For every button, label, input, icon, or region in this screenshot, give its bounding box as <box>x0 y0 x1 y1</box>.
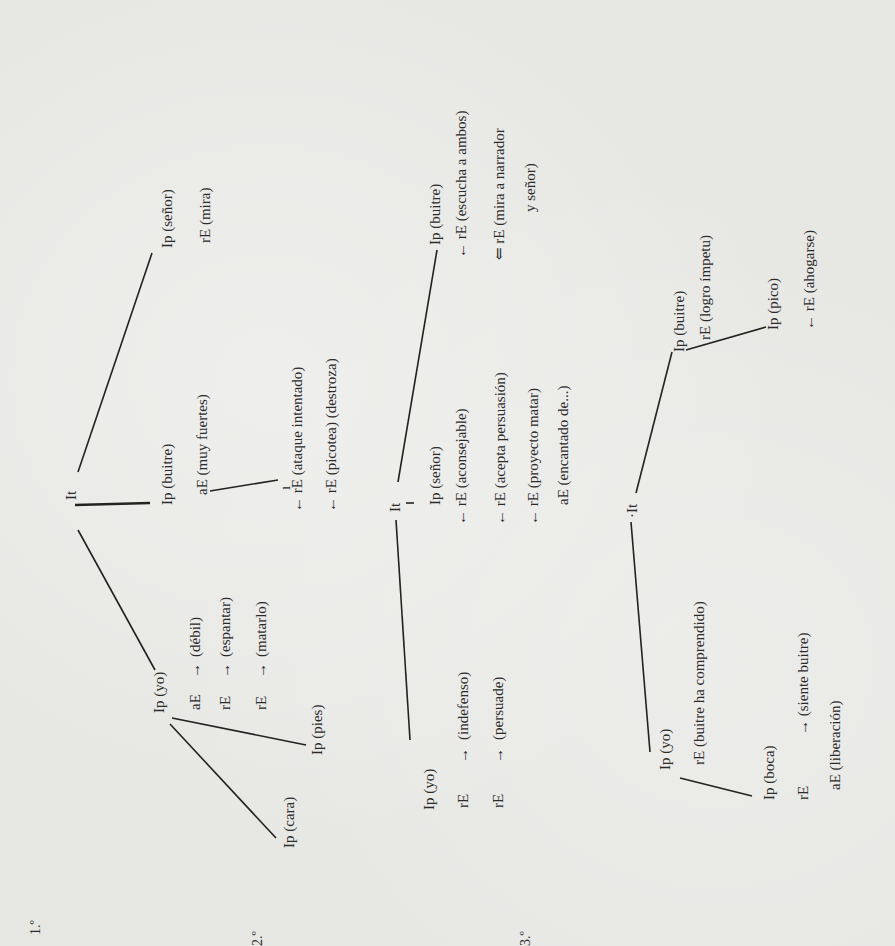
node-pico: Ip (pico) <box>765 278 782 330</box>
node-boca: Ip (boca) <box>761 745 778 800</box>
edge <box>78 253 152 472</box>
node-proyecto: ← rE (proyecto matar) <box>525 388 542 525</box>
node-senor: Ip (señor) <box>159 189 176 248</box>
node-buitre-fuertes: aE (muy fuertes) <box>194 394 211 495</box>
section-2: 2.º It Ip (buitre) ← rE (escucha a ambos… <box>250 111 572 946</box>
edge <box>631 522 650 752</box>
node-espantar-prefix: rE <box>217 696 233 710</box>
node-persuade: (persuade) <box>490 677 507 740</box>
edge <box>172 718 306 745</box>
node-yo: Ip (yo) <box>421 769 438 810</box>
section-1: 1.º It Ip (señor) rE (mira) Ip (buitre) … <box>28 188 340 935</box>
section-3-label: 3.º <box>518 931 533 946</box>
node-yo: Ip (yo) <box>657 729 674 770</box>
node-ahogarse: ← rE (ahogarse) <box>801 230 818 330</box>
tick-mark: ı <box>277 486 293 490</box>
arrow-right-icon: → <box>217 663 233 678</box>
arrow-right-icon: → <box>253 663 269 678</box>
edge <box>680 778 752 796</box>
arrow-right-icon: → <box>490 748 506 763</box>
edge <box>170 724 276 838</box>
section-1-root: It <box>63 490 79 500</box>
node-mira-1: ⇐ rE (mira a narrador <box>491 128 508 260</box>
node-acepta: ← rE (acepta persuasión) <box>492 372 509 525</box>
section-3-root: ·It <box>624 503 640 518</box>
node-encantado: aE (encantado de...) <box>555 385 572 505</box>
edge <box>396 520 410 740</box>
node-logro: rE (logro ímpetu) <box>697 235 714 340</box>
node-buitre: Ip (buitre) <box>671 291 688 352</box>
section-2-label: 2.º <box>250 931 265 946</box>
node-espantar: (espantar) <box>217 597 234 657</box>
node-escucha: ← rE (escucha a ambos) <box>453 111 470 258</box>
section-3: 3.º ·It Ip (buitre) rE (logro ímpetu) Ip… <box>518 230 844 946</box>
edge <box>75 503 150 505</box>
node-pies: Ip (pies) <box>309 705 326 755</box>
node-comprendido: rE (buitre ha comprendido) <box>691 601 708 765</box>
node-yo: Ip (yo) <box>151 672 168 713</box>
arrow-right-icon: → <box>455 748 471 763</box>
node-siente-prefix: rE <box>795 786 811 800</box>
node-cara: Ip (cara) <box>281 797 298 848</box>
node-mira-2: y señor) <box>522 163 539 212</box>
edge <box>210 480 278 491</box>
tree-diagrams: 1.º It Ip (señor) rE (mira) Ip (buitre) … <box>0 0 895 946</box>
node-siente: → (siente buitre) <box>795 633 812 735</box>
section-2-root: It <box>387 502 403 512</box>
edge <box>636 352 672 493</box>
node-senor: Ip (señor) <box>427 446 444 505</box>
node-liberacion: aE (liberación) <box>827 700 844 790</box>
node-senor-mira: rE (mira) <box>197 188 214 243</box>
node-indefenso: (indefenso) <box>455 672 472 740</box>
node-debil: (débil) <box>187 617 204 657</box>
section-1-label: 1.º <box>28 920 43 936</box>
node-persuade-prefix: rE <box>490 794 506 808</box>
node-matarlo: (matarlo) <box>253 601 270 657</box>
node-buitre: Ip (buitre) <box>159 444 176 505</box>
node-debil-prefix: aE <box>187 694 203 710</box>
node-matarlo-prefix: rE <box>253 696 269 710</box>
node-picotea: ← rE (picotea) (destroza) <box>323 358 340 512</box>
node-buitre: Ip (buitre) <box>427 184 444 245</box>
edge <box>78 530 155 670</box>
diagram-page: 1.º It Ip (señor) rE (mira) Ip (buitre) … <box>0 0 895 946</box>
node-indefenso-prefix: rE <box>455 794 471 808</box>
node-aconsejable: ← rE (aconsejable) <box>453 408 470 525</box>
arrow-right-icon: → <box>187 663 203 678</box>
